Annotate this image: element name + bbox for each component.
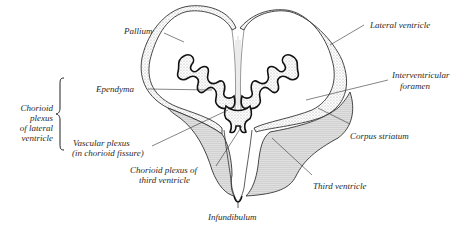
label-third-ventricle: Third ventricle xyxy=(313,181,366,191)
label-ependyma: Ependyma xyxy=(96,84,134,94)
label-infundibulum: Infundibulum xyxy=(208,212,257,222)
left-chorioid-plexus xyxy=(178,55,235,109)
label-corpus-striatum: Corpus striatum xyxy=(350,131,409,141)
label-chorioid-lateral-2: plexus xyxy=(30,113,53,123)
label-interventricular-1: Interventricular xyxy=(392,70,450,80)
forebrain-section-diagram xyxy=(0,0,473,229)
label-chorioid-lateral-4: ventricle xyxy=(22,133,53,143)
label-chorioid-third-1: Chorioid plexus of xyxy=(130,165,197,175)
right-chorioid-plexus xyxy=(241,55,298,109)
third-ventricle-chorioid-plexus xyxy=(225,106,252,133)
chorioid-plexus-brace xyxy=(56,78,64,150)
label-interventricular-2: foramen xyxy=(400,81,430,91)
label-pallium: Pallium xyxy=(124,26,153,36)
label-chorioid-lateral-3: of lateral xyxy=(20,123,53,133)
label-chorioid-lateral-1: Chorioid xyxy=(20,103,53,113)
label-vascular-plexus-1: Vascular plexus xyxy=(73,138,130,148)
label-lateral-ventricle: Lateral ventricle xyxy=(370,20,430,30)
label-chorioid-third-2: third ventricle xyxy=(139,175,190,185)
label-vascular-plexus-2: (in chorioid fissure) xyxy=(72,148,144,158)
